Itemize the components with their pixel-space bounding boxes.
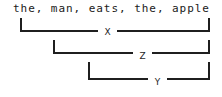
bracket-x-line-left-segment (20, 30, 98, 32)
bracket-z-label: Z (133, 51, 152, 61)
bracket-diagram: the, man, eats, the, apple X Z Y (0, 0, 222, 97)
bracket-x-right-tick (208, 18, 210, 32)
bracket-z-right-tick (208, 40, 210, 54)
bracket-z-line-right-segment (152, 52, 210, 54)
bracket-y-right-tick (208, 62, 210, 80)
bracket-x-label: X (98, 27, 117, 37)
sentence-text: the, man, eats, the, apple (13, 1, 210, 16)
bracket-y-line-left-segment (88, 78, 148, 80)
bracket-z-line-left-segment (53, 52, 133, 54)
bracket-x-line-right-segment (117, 30, 210, 32)
bracket-y-line-right-segment (167, 78, 210, 80)
bracket-y-label: Y (148, 77, 167, 87)
